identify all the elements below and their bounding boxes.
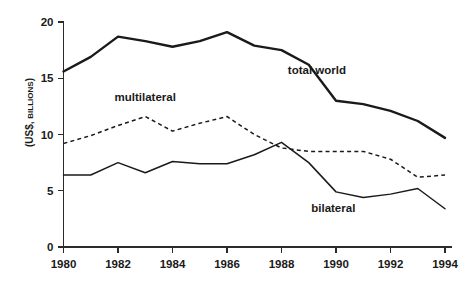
x-tick-label: 1990: [323, 258, 349, 270]
series-label-multilateral: multilateral: [115, 91, 176, 103]
chart-background: [0, 0, 462, 293]
x-tick-label: 1992: [378, 258, 404, 270]
y-tick-label: 0: [47, 241, 53, 253]
x-tick-label: 1984: [160, 258, 186, 270]
y-axis-title-text: (US$, BILLIONS): [24, 78, 35, 147]
series-label-total-world: total world: [288, 64, 346, 76]
y-tick-label: 10: [41, 129, 54, 141]
y-axis-title: (US$, BILLIONS): [24, 78, 35, 147]
x-tick-label: 1982: [105, 258, 131, 270]
x-tick-label: 1986: [214, 258, 240, 270]
line-chart: 05101520 1980198219841986198819901992199…: [0, 0, 462, 293]
x-tick-label: 1994: [432, 258, 458, 270]
y-tick-label: 5: [47, 185, 54, 197]
series-label-bilateral: bilateral: [311, 202, 355, 214]
y-tick-label: 20: [41, 16, 54, 28]
x-tick-label: 1988: [269, 258, 295, 270]
chart-container: 05101520 1980198219841986198819901992199…: [0, 0, 462, 293]
y-tick-label: 15: [41, 72, 54, 84]
x-tick-label: 1980: [51, 258, 77, 270]
